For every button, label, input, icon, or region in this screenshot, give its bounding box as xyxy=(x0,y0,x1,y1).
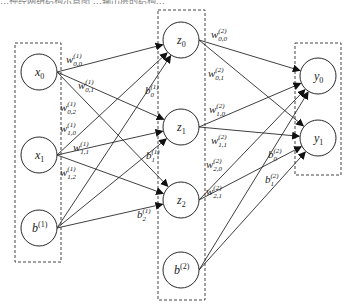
edge-label-w1-1-1: w(1)1,1 xyxy=(73,140,89,156)
edge-label-w2-2-0: w(2)2,0 xyxy=(206,157,222,173)
edge-label-b1-1: b(1)1 xyxy=(146,148,160,164)
node-y1: y1 xyxy=(300,120,336,156)
edge-label-w1-0-0: w(1)0,0 xyxy=(66,52,82,68)
edge-label-w1-0-1: w(1)0,1 xyxy=(78,78,94,94)
edge-label-w1-1-2: w(1)1,2 xyxy=(60,165,76,181)
edge-label-b2-0: b(2)0 xyxy=(268,147,282,163)
edge-label-w2-2-1: w(2)2,1 xyxy=(206,184,222,200)
edge-label-b1-0: b(1)0 xyxy=(145,83,159,99)
node-z0: z0 xyxy=(163,22,199,58)
node-y0: y0 xyxy=(300,58,336,94)
node-b1: b(1) xyxy=(21,210,57,246)
edge-label-w2-0-1: w(2)0,1 xyxy=(208,66,224,82)
edge-label-w2-1-1: w(2)1,1 xyxy=(211,133,227,149)
edge-label-w2-0-0: w(2)0,0 xyxy=(211,27,227,43)
node-x0: x0 xyxy=(21,54,57,90)
neural-network-diagram: x0x1b(1)z0z1z2b(2)y0y1 xyxy=(0,0,352,305)
edge-label-w1-0-2: w(1)0,2 xyxy=(60,100,76,116)
edge-label-b2-1: b(2)1 xyxy=(265,172,279,188)
node-b2: b(2) xyxy=(163,252,199,288)
edge-label-b1-2: b(1)2 xyxy=(137,207,151,223)
edge-label-w1-1-0: w(1)1,0 xyxy=(60,121,76,137)
node-z1: z1 xyxy=(163,109,199,145)
node-x1: x1 xyxy=(21,137,57,173)
edge-b2-y0 xyxy=(199,92,308,270)
edge-label-w2-1-0: w(2)1,0 xyxy=(209,102,225,118)
node-z2: z2 xyxy=(163,182,199,218)
